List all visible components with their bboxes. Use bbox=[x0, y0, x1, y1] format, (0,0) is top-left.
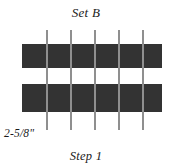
cutting-guide-line-4 bbox=[118, 30, 120, 130]
cutting-guide-line-5 bbox=[142, 30, 144, 130]
cutting-guide-line-2 bbox=[70, 30, 72, 130]
quilting-step-figure: Set B 2-5/8" Step 1 bbox=[0, 0, 172, 168]
bottom-fabric-strip bbox=[22, 84, 162, 112]
cutting-guide-line-1 bbox=[46, 30, 48, 130]
top-fabric-strip bbox=[22, 44, 162, 68]
figure-caption: Step 1 bbox=[0, 149, 172, 164]
strip-diagram bbox=[0, 0, 172, 168]
cutting-guide-line-3 bbox=[94, 30, 96, 130]
width-dimension-label: 2-5/8" bbox=[4, 127, 34, 139]
